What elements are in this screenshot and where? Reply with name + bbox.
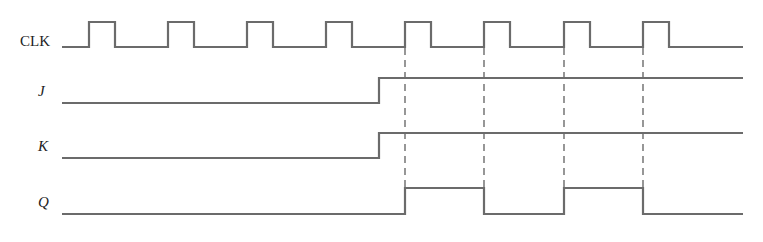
k-waveform: [62, 133, 743, 158]
q-waveform: [62, 188, 743, 214]
k-signal-label: K: [37, 138, 49, 154]
clk-signal-label: CLK: [20, 33, 50, 49]
clk-waveform: [62, 22, 743, 47]
j-signal-label: J: [38, 83, 46, 99]
j-waveform: [62, 78, 743, 103]
q-signal-label: Q: [38, 194, 49, 210]
timing-diagram: CLKJKQ CLK J K Q: [0, 0, 763, 242]
timing-diagram-canvas: CLKJKQ: [0, 0, 763, 242]
